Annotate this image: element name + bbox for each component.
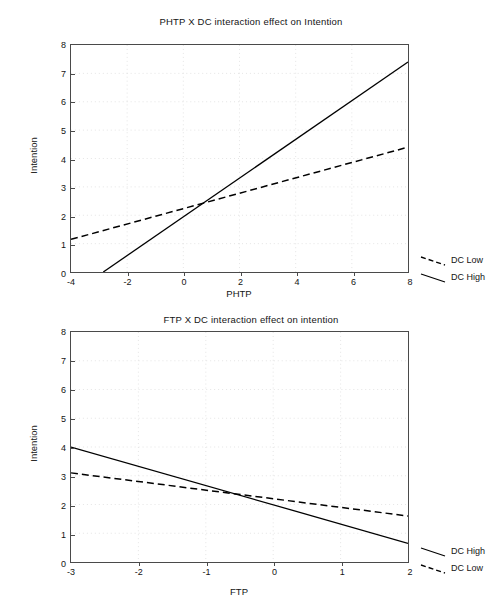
chart-title: FTP X DC interaction effect on intention (0, 314, 502, 325)
y-tick-label: 6 (61, 97, 66, 107)
x-tick-label: 2 (238, 277, 243, 287)
legend-label: DC High (451, 273, 485, 282)
y-tick-label: 1 (61, 530, 66, 540)
y-tick-label: 0 (61, 269, 66, 279)
legend-swatch-dashed-icon (420, 255, 446, 267)
x-tick-label: -2 (135, 567, 143, 577)
x-tick-mark (297, 272, 298, 276)
y-tick-label: 5 (61, 414, 66, 424)
legend-item: DC High (420, 543, 485, 560)
x-tick-mark (354, 272, 355, 276)
legend-label: DC Low (451, 256, 483, 265)
x-tick-mark (274, 562, 275, 566)
series-line-dc-low (71, 147, 408, 239)
x-tick-mark (207, 562, 208, 566)
x-tick-label: 8 (407, 277, 412, 287)
gridlines-horizontal (71, 73, 408, 243)
plot-canvas (71, 45, 408, 272)
y-axis-title: Intention (28, 419, 39, 469)
x-tick-label: -4 (67, 277, 75, 287)
gridlines-horizontal (71, 361, 408, 534)
series-line-dc-high (103, 62, 408, 272)
y-tick-label: 6 (61, 385, 66, 395)
y-tick-mark (71, 74, 75, 75)
x-tick-label: -1 (203, 567, 211, 577)
legend-item: DC High (420, 269, 485, 286)
x-tick-mark (241, 272, 242, 276)
y-tick-label: 2 (61, 212, 66, 222)
series-line-dc-low (71, 473, 408, 516)
legend-swatch-solid-icon (420, 272, 446, 284)
y-tick-label: 3 (61, 183, 66, 193)
x-tick-label: 0 (272, 567, 277, 577)
y-tick-label: 1 (61, 240, 66, 250)
y-tick-mark (71, 102, 75, 103)
x-tick-label: 0 (181, 277, 186, 287)
y-tick-label: 3 (61, 472, 66, 482)
y-tick-mark (71, 419, 75, 420)
y-tick-mark (71, 477, 75, 478)
y-tick-mark (71, 390, 75, 391)
legend-label: DC Low (451, 564, 483, 573)
x-tick-label: -2 (123, 277, 131, 287)
x-tick-label: 4 (294, 277, 299, 287)
y-tick-mark (71, 160, 75, 161)
y-tick-mark (71, 448, 75, 449)
y-tick-label: 8 (61, 40, 66, 50)
y-tick-label: 5 (61, 126, 66, 136)
y-tick-label: 8 (61, 327, 66, 337)
legend: DC High DC Low (420, 543, 485, 577)
legend-label: DC High (451, 547, 485, 556)
y-tick-label: 0 (61, 559, 66, 569)
y-tick-label: 2 (61, 501, 66, 511)
y-tick-mark (71, 131, 75, 132)
y-tick-label: 7 (61, 69, 66, 79)
x-tick-label: 6 (351, 277, 356, 287)
y-tick-label: 7 (61, 356, 66, 366)
plot-area: 8 7 6 5 4 3 2 1 0 -4 -2 0 2 4 6 8 (70, 44, 409, 273)
legend-item: DC Low (420, 252, 485, 269)
legend-item: DC Low (420, 560, 485, 577)
x-tick-mark (139, 562, 140, 566)
x-tick-mark (184, 272, 185, 276)
y-tick-mark (71, 188, 75, 189)
y-tick-mark (71, 506, 75, 507)
legend-swatch-solid-icon (420, 546, 446, 558)
y-axis-title: Intention (28, 131, 39, 181)
x-axis-title: FTP (230, 586, 248, 597)
chart-title: PHTP X DC interaction effect on Intentio… (0, 16, 502, 27)
y-tick-mark (71, 217, 75, 218)
chart-phtp-dc-interaction: PHTP X DC interaction effect on Intentio… (0, 0, 502, 310)
legend-swatch-dashed-icon (420, 563, 446, 575)
plot-area: 8 7 6 5 4 3 2 1 0 -3 -2 -1 0 1 2 (70, 331, 409, 563)
x-axis-title: PHTP (226, 288, 251, 299)
y-tick-mark (71, 361, 75, 362)
x-tick-label: 1 (340, 567, 345, 577)
x-tick-label: 2 (407, 567, 412, 577)
y-tick-label: 4 (61, 155, 66, 165)
y-tick-mark (71, 535, 75, 536)
chart-ftp-dc-interaction: FTP X DC interaction effect on intention… (0, 310, 502, 613)
y-tick-label: 4 (61, 443, 66, 453)
x-tick-mark (128, 272, 129, 276)
y-tick-mark (71, 245, 75, 246)
plot-canvas (71, 332, 408, 562)
x-tick-mark (342, 562, 343, 566)
legend: DC Low DC High (420, 252, 485, 286)
x-tick-label: -3 (67, 567, 75, 577)
